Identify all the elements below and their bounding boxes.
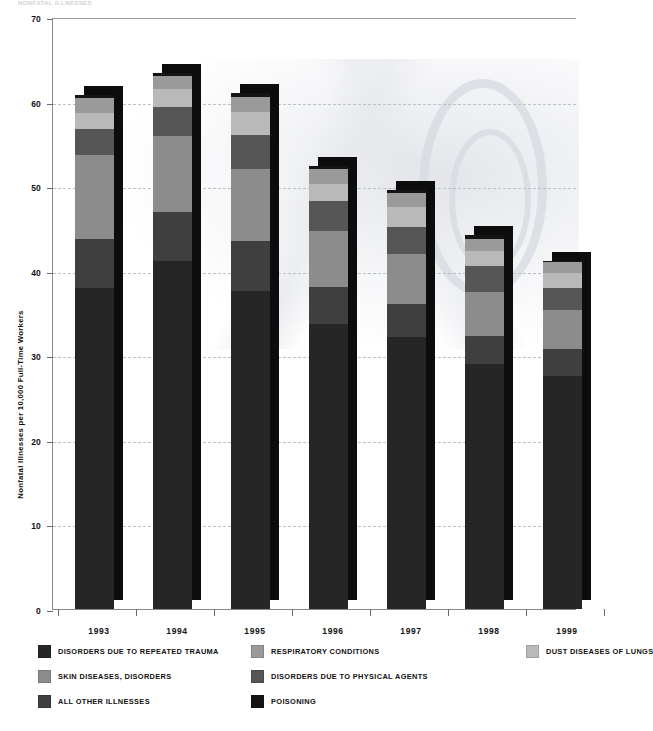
bar-segment[interactable] [543,273,582,287]
y-axis-tick-mark [47,357,53,358]
bar-group[interactable]: 1999 [543,17,591,609]
x-axis-tick-label: 1993 [69,626,129,636]
x-axis-tick-mark [526,609,527,616]
bar-segment[interactable] [309,287,348,324]
x-axis-tick-label: 1994 [147,626,207,636]
y-axis-tick-mark [47,104,53,105]
legend-item[interactable]: POISONING [251,695,316,708]
bar-group[interactable]: 1997 [387,17,435,609]
bar-stack[interactable] [387,190,426,609]
legend-label: DISORDERS DUE TO PHYSICAL AGENTS [271,672,428,681]
legend-swatch-icon [251,670,264,683]
bar-segment[interactable] [75,98,114,113]
legend-label: POISONING [271,697,316,706]
bar-segment[interactable] [153,212,192,261]
bar-segment[interactable] [153,136,192,212]
bar-stack[interactable] [231,93,270,609]
bar-stack[interactable] [153,73,192,609]
y-axis-tick-mark [47,442,53,443]
legend-item[interactable]: RESPIRATORY CONDITIONS [251,645,379,658]
x-axis-tick-mark [370,609,371,616]
legend-swatch-icon [251,695,264,708]
x-axis-tick-mark [58,609,59,616]
x-axis-tick-label: 1997 [381,626,441,636]
bar-segment[interactable] [75,113,114,128]
cut-off-header: NONFATAL ILLNESSES [18,0,258,7]
bar-segment[interactable] [543,376,582,609]
y-axis-tick-label: 10 [15,521,41,531]
bar-segment[interactable] [153,89,192,107]
bar-segment[interactable] [465,292,504,336]
bar-group[interactable]: 1998 [465,17,513,609]
legend-item[interactable]: SKIN DISEASES, DISORDERS [38,670,172,683]
bar-stack[interactable] [75,95,114,609]
bar-segment[interactable] [309,201,348,231]
bar-segment[interactable] [465,336,504,364]
bar-segment[interactable] [75,288,114,609]
bar-segment[interactable] [465,239,504,252]
x-axis-tick-label: 1999 [537,626,597,636]
bar-segment[interactable] [231,97,270,112]
bar-segment[interactable] [465,266,504,291]
bar-segment[interactable] [387,207,426,226]
y-axis-label-wrap: Nonfatal Illnesses per 10,000 Full-Time … [8,150,22,450]
legend-swatch-icon [38,670,51,683]
bar-group[interactable]: 1996 [309,17,357,609]
bar-segment[interactable] [309,169,348,183]
plot-area: 0102030405060701993199419951996199719981… [52,18,576,610]
bar-segment[interactable] [309,231,348,287]
bar-segment[interactable] [309,184,348,201]
bar-stack[interactable] [543,261,582,609]
bar-segment[interactable] [387,304,426,337]
bar-segment[interactable] [231,241,270,291]
y-axis-tick-label: 0 [15,606,41,616]
bar-stack[interactable] [309,166,348,609]
y-axis-tick-label: 20 [15,437,41,447]
legend-item[interactable]: DUST DISEASES OF LUNGS [526,645,653,658]
x-axis-tick-label: 1996 [303,626,363,636]
legend-item[interactable]: DISORDERS DUE TO PHYSICAL AGENTS [251,670,428,683]
x-axis-tick-mark [448,609,449,616]
bar-segment[interactable] [75,239,114,288]
x-axis-tick-mark [214,609,215,616]
bar-segment[interactable] [387,337,426,609]
legend-label: DISORDERS DUE TO REPEATED TRAUMA [58,647,219,656]
bar-segment[interactable] [543,288,582,310]
bar-segment[interactable] [543,262,582,273]
bar-segment[interactable] [231,135,270,170]
bar-group[interactable]: 1994 [153,17,201,609]
bar-segment[interactable] [153,76,192,89]
bar-segment[interactable] [75,129,114,155]
legend-swatch-icon [526,645,539,658]
bar-segment[interactable] [465,364,504,609]
bar-group[interactable]: 1995 [231,17,279,609]
y-axis-tick-label: 50 [15,183,41,193]
y-axis-tick-label: 70 [15,14,41,24]
bar-segment[interactable] [153,261,192,609]
y-axis-tick-mark [47,526,53,527]
bar-segment[interactable] [309,324,348,609]
legend-item[interactable]: ALL OTHER ILLNESSES [38,695,150,708]
bar-segment[interactable] [75,155,114,239]
bar-segment[interactable] [231,169,270,241]
legend-label: RESPIRATORY CONDITIONS [271,647,379,656]
bar-group[interactable]: 1993 [75,17,123,609]
bar-segment[interactable] [387,227,426,254]
legend-swatch-icon [38,645,51,658]
bar-segment[interactable] [387,193,426,207]
bar-segment[interactable] [543,310,582,349]
bar-segment[interactable] [153,107,192,137]
bar-segment[interactable] [387,254,426,304]
bar-segment[interactable] [231,291,270,609]
bar-segment[interactable] [231,112,270,135]
bar-segment[interactable] [465,251,504,266]
legend-swatch-icon [251,645,264,658]
bar-stack[interactable] [465,235,504,609]
x-axis-tick-label: 1995 [225,626,285,636]
x-axis-tick-mark [136,609,137,616]
bar-segment[interactable] [543,349,582,376]
legend-label: SKIN DISEASES, DISORDERS [58,672,172,681]
legend-item[interactable]: DISORDERS DUE TO REPEATED TRAUMA [38,645,219,658]
y-axis-label: Nonfatal Illnesses per 10,000 Full-Time … [16,245,25,565]
